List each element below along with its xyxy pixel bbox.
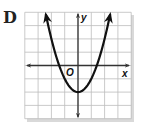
y-axis-label: y — [80, 12, 87, 23]
coordinate-graph: y x O — [0, 0, 142, 127]
origin-label: O — [66, 67, 74, 78]
x-axis-label: x — [121, 68, 128, 79]
